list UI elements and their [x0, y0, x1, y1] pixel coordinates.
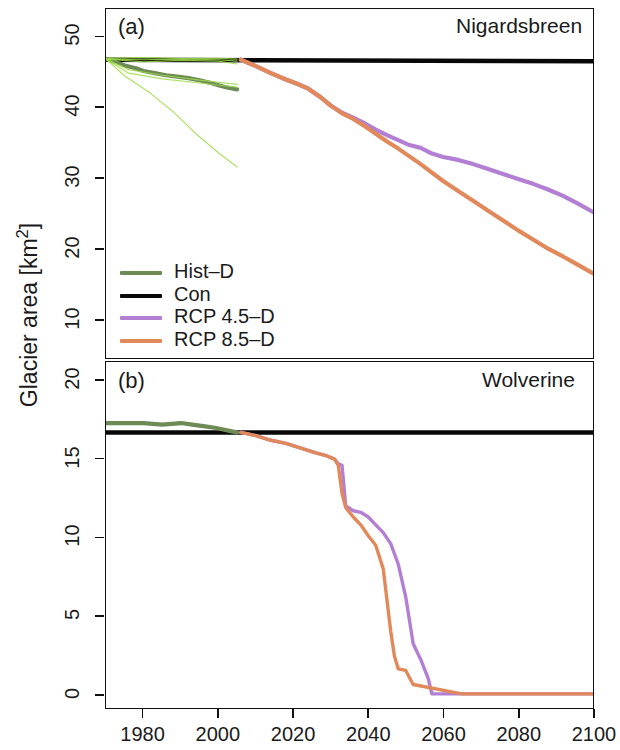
y-tick-a-10 — [95, 319, 104, 321]
legend-label-rcp85: RCP 8.5–D — [174, 328, 275, 351]
x-tick-label-2040: 2040 — [333, 723, 403, 746]
x-tick-2060 — [443, 709, 445, 718]
panel-b-wolverine — [105, 361, 594, 709]
y-tick-b-20 — [95, 379, 104, 381]
x-tick-label-2100: 2100 — [559, 723, 620, 746]
x-tick-label-2080: 2080 — [484, 723, 554, 746]
y-tick-label-b-5: 5 — [61, 592, 84, 638]
legend-swatch-con — [120, 294, 162, 298]
x-tick-2040 — [367, 709, 369, 718]
y-tick-label-b-10: 10 — [61, 513, 84, 559]
legend-label-con: Con — [174, 283, 211, 306]
y-tick-b-0 — [95, 694, 104, 696]
x-tick-label-2060: 2060 — [409, 723, 479, 746]
y-axis-title-bracket: ] — [16, 223, 42, 229]
x-tick-2080 — [518, 709, 520, 718]
y-tick-label-b-20: 20 — [61, 355, 84, 401]
x-tick-label-1980: 1980 — [108, 723, 178, 746]
panel-b-tag: (b) — [118, 368, 145, 394]
x-tick-2100 — [593, 709, 595, 718]
y-axis-title-superscript: 2 — [13, 229, 32, 238]
y-tick-label-a-40: 40 — [61, 83, 84, 129]
y-axis-title-text: Glacier area [km — [16, 238, 42, 407]
y-tick-b-5 — [95, 615, 104, 617]
y-tick-label-a-50: 50 — [61, 12, 84, 58]
x-tick-label-2020: 2020 — [258, 723, 328, 746]
y-tick-a-20 — [95, 248, 104, 250]
legend-swatch-rcp85 — [120, 339, 162, 343]
y-tick-label-b-15: 15 — [61, 434, 84, 480]
legend-swatch-rcp45 — [120, 316, 162, 320]
x-tick-1980 — [142, 709, 144, 718]
y-tick-label-a-10: 10 — [61, 296, 84, 342]
y-tick-a-30 — [95, 177, 104, 179]
y-tick-b-15 — [95, 458, 104, 460]
y-tick-b-10 — [95, 537, 104, 539]
panel-a-tag: (a) — [118, 14, 145, 40]
y-tick-label-a-30: 30 — [61, 154, 84, 200]
legend-label-hist-d: Hist–D — [174, 260, 234, 283]
x-tick-label-2000: 2000 — [183, 723, 253, 746]
y-axis-title: Glacier area [km2] — [13, 165, 43, 465]
y-tick-a-40 — [95, 106, 104, 108]
y-tick-label-b-0: 0 — [61, 670, 84, 716]
panel-b-plot-area — [106, 362, 593, 708]
panel-b-title: Wolverine — [482, 368, 575, 392]
panel-a-title: Nigardsbreen — [456, 14, 582, 38]
x-tick-2020 — [292, 709, 294, 718]
x-tick-2000 — [217, 709, 219, 718]
legend-label-rcp45: RCP 4.5–D — [174, 305, 275, 328]
legend-swatch-hist-d — [120, 271, 162, 275]
y-tick-a-50 — [95, 36, 104, 38]
y-tick-label-a-20: 20 — [61, 225, 84, 271]
